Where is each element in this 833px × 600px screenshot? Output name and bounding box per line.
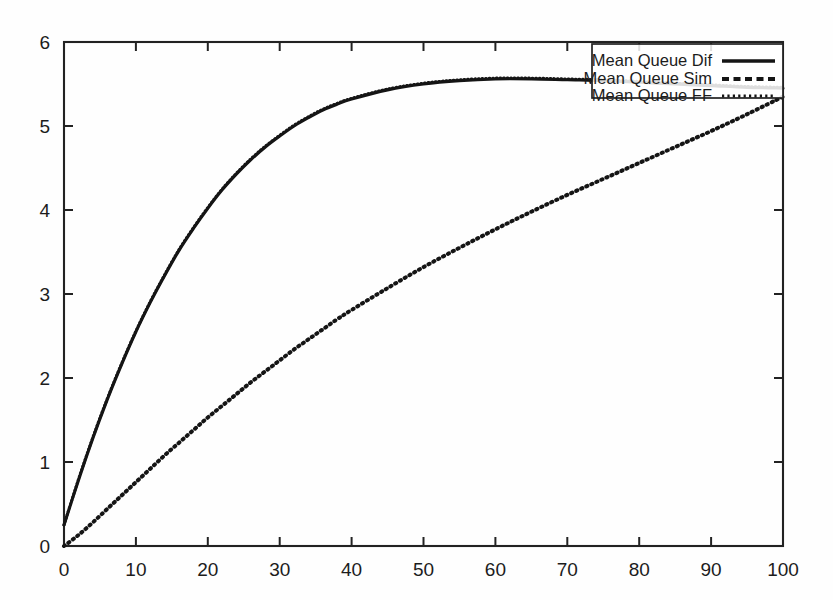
x-tick-label: 80 [629, 559, 650, 580]
y-tick-label: 6 [39, 32, 50, 53]
y-tick-label: 0 [39, 536, 50, 557]
series-line [64, 78, 783, 525]
legend-label: Mean Queue FF [592, 86, 712, 104]
data-curves [64, 78, 783, 546]
y-tick-label: 1 [39, 452, 50, 473]
x-tick-label: 40 [341, 559, 362, 580]
plot-frame [64, 42, 783, 546]
line-chart: 0102030405060708090100 0123456 Mean Queu… [0, 0, 833, 600]
y-tick-label: 3 [39, 284, 50, 305]
x-tick-label: 0 [59, 559, 70, 580]
x-tick-label: 50 [413, 559, 434, 580]
x-tick-label: 30 [269, 559, 290, 580]
legend-label: Mean Queue Dif [592, 51, 713, 69]
chart-container: 0102030405060708090100 0123456 Mean Queu… [0, 0, 833, 600]
series-line [64, 97, 783, 546]
x-tick-label: 90 [701, 559, 722, 580]
y-tick-label: 4 [39, 200, 50, 221]
x-tick-label: 20 [197, 559, 218, 580]
x-tick-label: 60 [485, 559, 506, 580]
y-axis-ticks: 0123456 [39, 32, 783, 557]
x-tick-label: 10 [125, 559, 146, 580]
y-tick-label: 2 [39, 368, 50, 389]
x-tick-label: 100 [767, 559, 799, 580]
y-tick-label: 5 [39, 116, 50, 137]
x-axis-ticks: 0102030405060708090100 [59, 42, 799, 580]
chart-legend: Mean Queue DifMean Queue SimMean Queue F… [584, 44, 783, 104]
legend-label: Mean Queue Sim [584, 69, 712, 87]
x-tick-label: 70 [557, 559, 578, 580]
